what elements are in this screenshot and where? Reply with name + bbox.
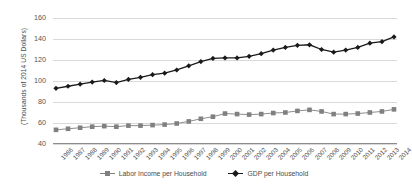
data-point-marker xyxy=(283,110,288,115)
data-point-marker xyxy=(150,72,155,77)
data-point-marker xyxy=(319,47,324,52)
y-tick-label: 160 xyxy=(22,14,46,21)
x-tick-label: 1992 xyxy=(132,146,147,161)
x-tick-label: 2009 xyxy=(337,146,352,161)
data-point-marker xyxy=(247,54,252,59)
data-point-marker xyxy=(90,124,95,129)
data-point-marker xyxy=(138,75,143,80)
data-point-marker xyxy=(78,82,83,87)
data-point-marker xyxy=(53,86,58,91)
data-point-marker xyxy=(234,55,239,60)
data-point-marker xyxy=(331,112,336,117)
square-marker-icon xyxy=(100,169,115,177)
data-point-marker xyxy=(65,84,70,89)
data-point-marker xyxy=(259,51,264,56)
data-point-marker xyxy=(186,119,191,124)
data-point-marker xyxy=(114,124,119,129)
data-point-marker xyxy=(367,41,372,46)
y-tick-label: 60 xyxy=(22,119,46,126)
y-tick-label: 100 xyxy=(22,77,46,84)
data-point-marker xyxy=(174,121,179,126)
data-point-marker xyxy=(368,110,373,115)
legend-label-labor-income: Labor Income per Household xyxy=(119,170,207,177)
y-axis-tick-labels: 406080100120140160 xyxy=(22,0,46,188)
data-point-marker xyxy=(355,111,360,116)
x-tick-label: 1996 xyxy=(180,146,195,161)
data-point-marker xyxy=(174,67,179,72)
x-tick-label: 1995 xyxy=(168,146,183,161)
legend-item-gdp[interactable]: GDP per Household xyxy=(228,169,308,177)
data-point-marker xyxy=(162,122,167,127)
x-tick-label: 2007 xyxy=(313,146,328,161)
data-point-marker xyxy=(271,111,276,116)
x-tick-label: 1994 xyxy=(156,146,171,161)
data-point-marker xyxy=(90,79,95,84)
data-point-marker xyxy=(102,124,107,129)
diamond-marker-icon xyxy=(228,169,243,177)
data-point-marker xyxy=(102,78,107,83)
data-point-marker xyxy=(343,47,348,52)
data-point-marker xyxy=(259,112,264,117)
data-point-marker xyxy=(343,112,348,117)
y-tick-label: 80 xyxy=(22,98,46,105)
data-point-marker xyxy=(307,108,312,113)
data-point-marker xyxy=(126,77,131,82)
y-tick-label: 140 xyxy=(22,35,46,42)
data-point-marker xyxy=(319,109,324,114)
data-point-marker xyxy=(199,117,204,122)
data-point-marker xyxy=(138,123,143,128)
data-point-marker xyxy=(307,42,312,47)
x-tick-label: 2006 xyxy=(301,146,316,161)
data-point-marker xyxy=(379,39,384,44)
data-point-marker xyxy=(150,123,155,128)
data-point-marker xyxy=(392,107,397,112)
x-tick-label: 1993 xyxy=(144,146,159,161)
chart-legend: Labor Income per Household GDP per House… xyxy=(0,169,408,177)
data-point-marker xyxy=(247,112,252,117)
data-point-marker xyxy=(331,50,336,55)
data-point-marker xyxy=(295,43,300,48)
data-point-marker xyxy=(186,63,191,68)
plot-area xyxy=(53,18,397,144)
legend-label-gdp: GDP per Household xyxy=(247,170,308,177)
data-point-marker xyxy=(355,45,360,50)
x-tick-label: 1997 xyxy=(192,146,207,161)
data-point-marker xyxy=(283,45,288,50)
data-point-marker xyxy=(54,128,59,133)
data-point-marker xyxy=(271,47,276,52)
data-point-marker xyxy=(295,109,300,114)
x-tick-label: 2008 xyxy=(325,146,340,161)
data-point-marker xyxy=(222,55,227,60)
data-point-marker xyxy=(126,123,131,128)
legend-item-labor-income[interactable]: Labor Income per Household xyxy=(100,169,207,177)
data-point-marker xyxy=(78,125,83,130)
data-point-marker xyxy=(198,59,203,64)
data-series-layer xyxy=(53,18,397,144)
data-point-marker xyxy=(235,112,240,117)
y-tick-label: 40 xyxy=(22,140,46,147)
x-tick-label: 2014 xyxy=(397,146,412,161)
data-point-marker xyxy=(66,126,71,131)
data-point-marker xyxy=(210,56,215,61)
data-point-marker xyxy=(114,80,119,85)
data-point-marker xyxy=(391,34,396,39)
data-point-marker xyxy=(162,71,167,76)
y-tick-label: 120 xyxy=(22,56,46,63)
data-point-marker xyxy=(211,114,216,119)
data-point-marker xyxy=(380,109,385,114)
x-tick-label: 2011 xyxy=(361,146,376,161)
data-point-marker xyxy=(223,111,228,116)
